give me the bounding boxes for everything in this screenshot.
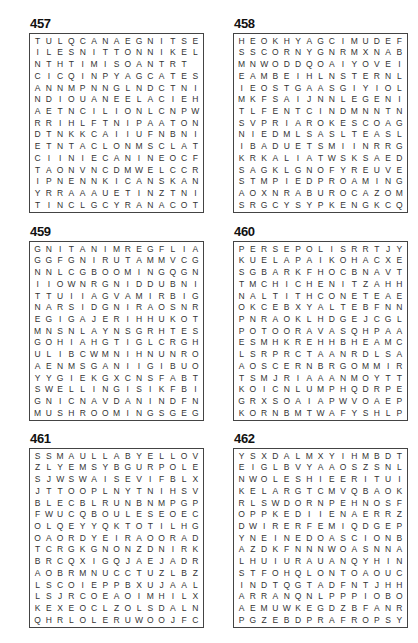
grid-letter: V [349,396,360,408]
grid-letter: H [156,325,167,337]
grid-letter: L [259,485,270,497]
grid-letter: Y [394,243,405,255]
grid-letter: H [178,520,189,532]
grid-letter: D [133,278,144,290]
grid-letter: W [133,614,144,626]
grid-letter: C [371,255,382,267]
grid-letter: I [156,35,167,47]
grid-letter: I [122,117,133,129]
grid-letter: A [111,152,122,164]
grid-letter: O [167,152,178,164]
grid-letter: X [190,473,201,485]
grid-letter: E [349,94,360,106]
grid-letter: I [190,278,201,290]
grid-letter: Z [360,278,371,290]
grid-letter: E [178,70,189,82]
grid-letter: I [55,94,66,106]
grid-letter: S [382,129,393,141]
grid-letter: F [337,579,348,591]
grid-letter: S [111,58,122,70]
letter-grid: TULQCANAEGNITSEILESNITTONNIKELNTHTIMISOA… [29,33,204,213]
grid-letter: O [122,47,133,59]
grid-letter: I [360,473,371,485]
grid-letter: L [315,591,326,603]
grid-letter: R [292,337,303,349]
grid-letter: L [88,450,99,462]
grid-letter: B [167,278,178,290]
grid-letter: L [394,129,405,141]
grid-letter: W [247,520,258,532]
grid-letter: V [111,290,122,302]
grid-letter: H [394,278,405,290]
grid-letter: B [122,450,133,462]
grid-letter: I [66,290,77,302]
grid-letter: L [304,313,315,325]
grid-letter: T [66,141,77,153]
grid-letter: E [270,614,281,626]
grid-letter: S [236,199,247,211]
grid-letter: S [337,325,348,337]
grid-letter: O [337,462,348,474]
grid-letter: S [270,82,281,94]
grid-letter: K [111,520,122,532]
grid-letter: M [382,337,393,349]
grid-letter: S [337,70,348,82]
grid-letter: E [371,94,382,106]
grid-letter: P [270,176,281,188]
grid-letter: A [236,544,247,556]
grid-letter: L [281,164,292,176]
grid-letter: V [167,255,178,267]
grid-letter: F [337,407,348,419]
grid-letter: I [66,337,77,349]
grid-letter: C [100,164,111,176]
grid-letter: N [190,396,201,408]
grid-letter: C [77,591,88,603]
grid-letter: E [190,35,201,47]
grid-letter: B [360,302,371,314]
grid-letter: N [43,396,54,408]
grid-letter: F [394,497,405,509]
grid-letter: T [55,105,66,117]
grid-letter: S [66,473,77,485]
grid-letter: U [281,141,292,153]
grid-letter: U [156,278,167,290]
grid-letter: L [100,105,111,117]
grid-letter: N [43,82,54,94]
grid-letter: E [270,105,281,117]
grid-letter: M [66,360,77,372]
grid-letter: N [55,82,66,94]
grid-letter: I [190,384,201,396]
grid-letter: G [88,544,99,556]
grid-letter: O [122,591,133,603]
grid-letter: A [88,325,99,337]
grid-letter: M [360,176,371,188]
grid-letter: S [270,396,281,408]
grid-letter: X [55,603,66,615]
grid-letter: I [394,473,405,485]
grid-letter: M [360,450,371,462]
grid-letter: U [178,360,189,372]
grid-letter: S [247,349,258,361]
grid-letter: C [315,290,326,302]
grid-letter: B [88,266,99,278]
grid-letter: U [281,556,292,568]
grid-letter: I [77,302,88,314]
grid-letter: W [77,473,88,485]
grid-letter: N [382,302,393,314]
grid-letter: P [236,325,247,337]
grid-letter: C [259,302,270,314]
grid-letter: S [371,462,382,474]
grid-letter: E [371,290,382,302]
grid-letter: A [326,462,337,474]
grid-letter: I [111,532,122,544]
grid-letter: T [304,579,315,591]
grid-letter: N [66,164,77,176]
grid-letter: A [360,188,371,200]
grid-letter: H [349,497,360,509]
grid-letter: B [360,485,371,497]
grid-letter: G [88,360,99,372]
grid-letter: Y [111,70,122,82]
grid-letter: E [349,313,360,325]
grid-letter: A [315,349,326,361]
grid-letter: E [349,302,360,314]
